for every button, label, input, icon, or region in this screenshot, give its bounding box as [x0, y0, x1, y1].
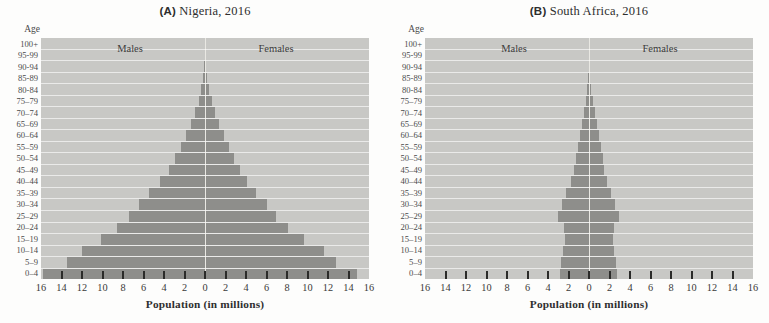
x-tick-mark: [527, 271, 529, 279]
x-tick-label: 2: [182, 282, 187, 293]
age-group-label: 20–24: [0, 222, 38, 233]
x-tick-mark: [266, 271, 268, 279]
male-bar: [82, 246, 205, 257]
age-group-label: 10–14: [384, 244, 422, 255]
x-tick-mark: [629, 271, 631, 279]
x-tick-label: 6: [525, 282, 530, 293]
x-tick-label: 16: [748, 282, 758, 293]
x-tick-label: 14: [440, 282, 450, 293]
x-tick-mark: [307, 271, 309, 279]
x-tick-label: 2: [607, 282, 612, 293]
x-tick-label: 4: [627, 282, 632, 293]
x-tick-label: 6: [264, 282, 269, 293]
x-tick-label: 12: [323, 282, 333, 293]
x-tick-mark: [225, 271, 227, 279]
female-bar: [205, 153, 234, 164]
age-group-label: 5–9: [0, 256, 38, 267]
age-group-label: 55–59: [0, 141, 38, 152]
female-bar: [205, 246, 324, 257]
x-tick-label: 10: [302, 282, 312, 293]
x-tick-label: 0: [586, 282, 591, 293]
female-bar: [589, 234, 613, 245]
age-group-label: 45–49: [0, 164, 38, 175]
x-tick-label: 8: [668, 282, 673, 293]
female-bar: [205, 176, 247, 187]
x-tick-label: 4: [243, 282, 248, 293]
female-bar: [205, 199, 267, 210]
age-group-label: 40–44: [384, 176, 422, 187]
age-group-label: 20–24: [384, 222, 422, 233]
male-bar: [574, 165, 589, 176]
female-bar: [205, 165, 240, 176]
x-tick-mark: [732, 271, 734, 279]
age-group-label: 90-94: [0, 61, 38, 72]
x-tick-label: 12: [461, 282, 471, 293]
female-bar: [589, 188, 611, 199]
chart-panel-a-nigeria: (A) Nigeria, 2016 Age 100+95-9990-9485-8…: [0, 0, 380, 323]
x-tick-label: 4: [545, 282, 550, 293]
female-bar: [589, 119, 597, 130]
x-tick-mark: [609, 271, 611, 279]
age-group-label: 30–34: [0, 199, 38, 210]
age-group-label: 25–29: [0, 210, 38, 221]
age-group-label: 95-99: [0, 49, 38, 60]
female-bar: [589, 176, 607, 187]
x-tick-label: 2: [223, 282, 228, 293]
female-bar: [589, 153, 603, 164]
female-bar: [205, 130, 224, 141]
age-group-label: 90-94: [384, 61, 422, 72]
female-bar: [205, 188, 256, 199]
x-tick-mark: [81, 271, 83, 279]
female-bar: [205, 257, 336, 268]
age-group-label: 70–74: [384, 107, 422, 118]
female-bar: [205, 119, 219, 130]
age-group-label: 0–4: [384, 267, 422, 278]
x-tick-label: 16: [420, 282, 430, 293]
age-group-label: 25–29: [384, 210, 422, 221]
female-bar: [205, 96, 212, 107]
age-group-label: 30–34: [384, 199, 422, 210]
age-group-label: 85-89: [384, 72, 422, 83]
females-label: Females: [259, 43, 294, 54]
x-tick-label: 16: [364, 282, 374, 293]
age-group-label: 75–79: [384, 95, 422, 106]
age-group-label: 40–44: [0, 176, 38, 187]
figure-population-pyramids: (A) Nigeria, 2016 Age 100+95-9990-9485-8…: [0, 0, 769, 323]
female-bar: [205, 234, 304, 245]
zero-axis-line: [205, 38, 206, 279]
female-bar: [589, 165, 604, 176]
female-bar: [589, 257, 616, 268]
x-tick-mark: [122, 271, 124, 279]
age-group-label: 55–59: [384, 141, 422, 152]
age-axis-label: Age: [384, 24, 424, 34]
age-group-label: 85-89: [0, 72, 38, 83]
panel-label: (A): [159, 5, 176, 17]
tick-row: [41, 270, 369, 279]
x-tick-mark: [486, 271, 488, 279]
male-bar: [571, 176, 589, 187]
age-group-label: 35–39: [384, 187, 422, 198]
female-bar: [589, 107, 595, 118]
x-tick-mark: [547, 271, 549, 279]
age-group-label: 15–19: [384, 233, 422, 244]
age-group-label: 70–74: [0, 107, 38, 118]
x-tick-label: 6: [141, 282, 146, 293]
male-bar: [191, 119, 205, 130]
age-group-label: 75–79: [0, 95, 38, 106]
male-bar: [558, 211, 589, 222]
female-bar: [589, 246, 614, 257]
x-tick-mark: [163, 271, 165, 279]
x-tick-mark: [184, 271, 186, 279]
female-bar: [205, 107, 215, 118]
plot-area: Males Females: [425, 38, 753, 279]
x-tick-label: 14: [727, 282, 737, 293]
x-tick-mark: [61, 271, 63, 279]
age-group-label: 35–39: [0, 187, 38, 198]
age-group-label: 50–54: [384, 153, 422, 164]
female-bar: [589, 223, 614, 234]
x-tick-label: 6: [648, 282, 653, 293]
x-tick-mark: [143, 271, 145, 279]
x-tick-mark: [711, 271, 713, 279]
age-group-label: 5–9: [384, 256, 422, 267]
chart-title-text: South Africa, 2016: [550, 4, 648, 18]
